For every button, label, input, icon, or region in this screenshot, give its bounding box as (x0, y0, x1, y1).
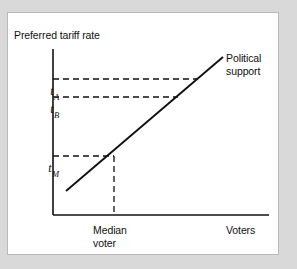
tick-subscript-tb: B (54, 110, 59, 120)
y-axis-label: Preferred tariff rate (14, 29, 100, 42)
x-axis-label: Voters (226, 224, 255, 237)
figure-root: Preferred tariff rate Political support … (0, 0, 297, 269)
tick-subscript-tm: M (52, 169, 59, 179)
political-support-line (66, 57, 223, 191)
chart-panel: Preferred tariff rate Political support … (7, 12, 279, 255)
chart-plot-area (8, 13, 279, 255)
political-support-label: Political support (226, 52, 261, 78)
median-voter-label: Median voter (93, 224, 127, 250)
y-tick-label-tm: tM (30, 149, 59, 189)
y-tick-label-tb: tB (32, 90, 59, 130)
